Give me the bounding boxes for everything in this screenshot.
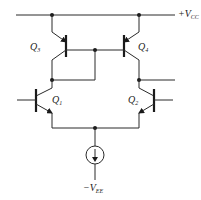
transistor-q3	[52, 15, 66, 80]
vee-label: −VEE	[83, 183, 103, 194]
q1-label: Q1	[52, 95, 62, 106]
q3-label: Q3	[30, 42, 40, 53]
current-source	[86, 128, 104, 180]
circuit-diagram: +VCC −VEE Q3 Q4 Q1 Q2	[0, 0, 201, 200]
schematic	[0, 0, 201, 200]
q2-label: Q2	[128, 95, 138, 106]
transistor-q1	[17, 80, 52, 128]
transistor-q2	[139, 80, 173, 128]
arrow-down-icon	[92, 157, 98, 162]
transistor-q4	[124, 15, 139, 80]
q4-label: Q4	[138, 42, 148, 53]
vcc-label: +VCC	[178, 9, 199, 20]
